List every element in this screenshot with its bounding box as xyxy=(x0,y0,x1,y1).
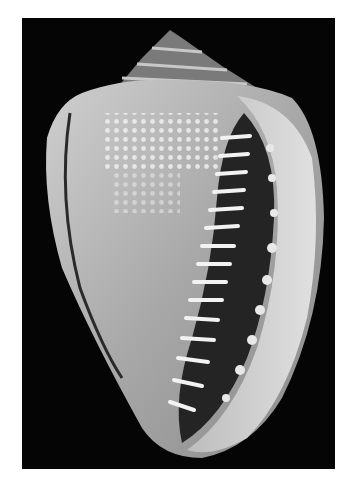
photo-frame xyxy=(22,18,335,469)
shell-knob-pattern xyxy=(102,113,222,173)
shell-illustration xyxy=(22,18,335,469)
